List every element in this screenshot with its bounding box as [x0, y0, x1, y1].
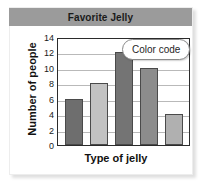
- y-tick-label-8: 8: [32, 80, 54, 89]
- y-tick-label-0: 0: [32, 142, 54, 151]
- chart-figure: Favorite Jelly Number of people 14121086…: [0, 0, 205, 189]
- y-tick-label-2: 2: [32, 126, 54, 135]
- y-tick-label-6: 6: [32, 95, 54, 104]
- y-tick-label-12: 12: [32, 49, 54, 58]
- bar-3: [115, 52, 133, 145]
- chart-title-band: Favorite Jelly: [9, 8, 192, 26]
- bar-1: [65, 99, 83, 145]
- color-code-callout[interactable]: Color code: [122, 39, 190, 60]
- color-code-callout-label: Color code: [132, 44, 180, 55]
- y-tick-label-4: 4: [32, 111, 54, 120]
- y-tick-label-10: 10: [32, 64, 54, 73]
- bar-5: [165, 114, 183, 145]
- bar-2: [90, 83, 108, 145]
- bar-4: [140, 68, 158, 145]
- x-axis-label: Type of jelly: [40, 152, 192, 164]
- chart-title: Favorite Jelly: [68, 12, 133, 23]
- y-tick-label-14: 14: [32, 34, 54, 43]
- y-axis-tick-labels: 14121086420: [32, 38, 54, 146]
